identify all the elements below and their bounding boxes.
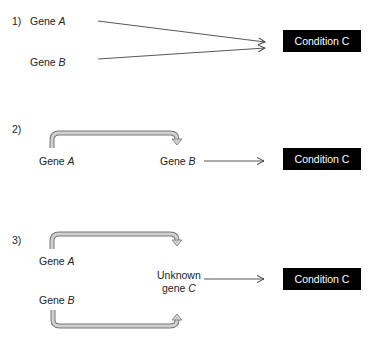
gene-a-label: Gene A xyxy=(30,16,66,27)
panel-number: 2) xyxy=(12,124,21,135)
panel-number: 3) xyxy=(12,235,21,246)
arrow-gene-b-to-condition xyxy=(98,48,265,59)
gene-b-label: Gene B xyxy=(39,295,75,306)
gene-a-label: Gene A xyxy=(39,256,75,267)
unknown-gene-c-label: Unknown gene C xyxy=(157,269,201,295)
panel-number: 1) xyxy=(12,16,21,27)
condition-c-box: Condition C xyxy=(283,148,361,170)
condition-c-box: Condition C xyxy=(283,268,361,290)
curved-arrow-gene-a-to-gene-c xyxy=(52,234,182,249)
gene-b-label: Gene B xyxy=(30,57,66,68)
gene-b-label: Gene B xyxy=(160,156,196,167)
gene-a-label: Gene A xyxy=(39,156,75,167)
arrow-gene-a-to-condition xyxy=(98,21,265,42)
condition-c-box: Condition C xyxy=(283,30,361,52)
curved-arrow-gene-b-to-gene-c xyxy=(53,310,182,326)
curved-arrow-gene-a-to-gene-b xyxy=(52,133,182,148)
